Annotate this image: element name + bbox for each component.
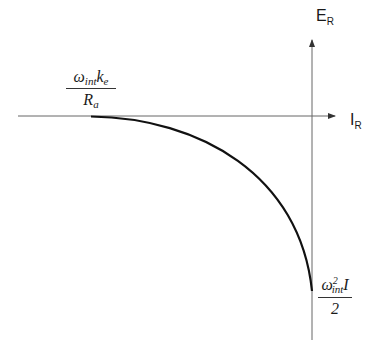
x-axis-label-sub: R bbox=[354, 120, 361, 131]
e-subscript: e bbox=[104, 75, 109, 87]
y-axis-label-sub: R bbox=[327, 16, 334, 27]
int-subscript: int bbox=[332, 283, 344, 295]
x-intercept-denominator: Ra bbox=[66, 91, 116, 110]
k-symbol: k bbox=[96, 68, 103, 85]
omega-symbol: ω bbox=[321, 276, 332, 293]
y-axis-label: ER bbox=[316, 8, 334, 24]
omega-symbol: ω bbox=[74, 68, 85, 85]
x-intercept-label: ωintke Ra bbox=[66, 68, 116, 110]
y-axis-label-main: E bbox=[316, 7, 327, 24]
x-axis-label: IR bbox=[350, 112, 362, 128]
fraction-bar bbox=[66, 88, 116, 89]
y-intercept-label: ω2intI 2 bbox=[318, 276, 352, 318]
int-subscript: int bbox=[85, 75, 97, 87]
fraction-bar bbox=[318, 297, 352, 298]
i-symbol: I bbox=[343, 276, 348, 293]
a-subscript: a bbox=[93, 98, 99, 110]
y-intercept-denominator: 2 bbox=[318, 300, 352, 318]
characteristic-curve bbox=[91, 117, 312, 292]
x-intercept-numerator: ωintke bbox=[66, 68, 116, 87]
y-intercept-numerator: ω2intI bbox=[318, 276, 352, 296]
r-symbol: R bbox=[83, 91, 93, 108]
